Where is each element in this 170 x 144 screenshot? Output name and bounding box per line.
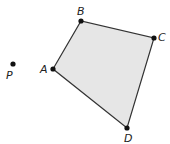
quadrilateral-abcd <box>53 21 154 128</box>
point-p-label: P <box>6 69 13 82</box>
diagram-canvas: A B C D P <box>0 0 170 144</box>
vertex-b-label: B <box>77 5 85 18</box>
vertex-d-dot <box>124 125 129 130</box>
vertex-b-dot <box>78 18 83 23</box>
point-p-dot <box>10 61 15 66</box>
vertex-a-label: A <box>39 63 48 76</box>
vertex-a-dot <box>50 66 55 71</box>
vertex-d-label: D <box>124 132 132 144</box>
vertex-c-label: C <box>158 31 166 44</box>
vertex-c-dot <box>151 35 156 40</box>
